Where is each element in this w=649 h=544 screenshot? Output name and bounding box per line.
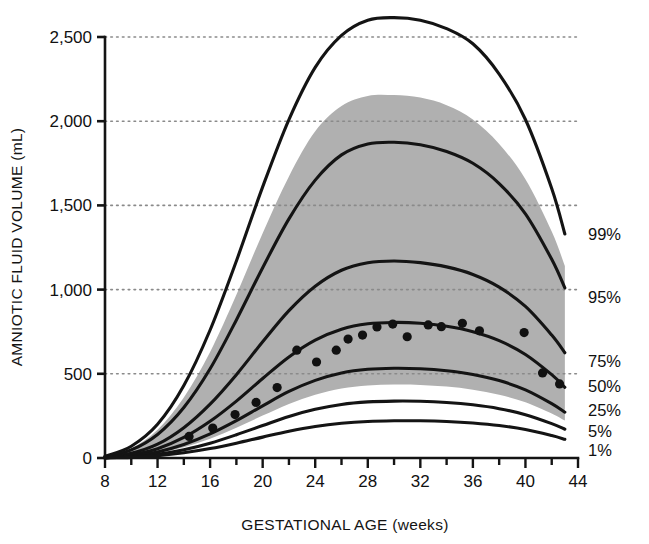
scatter-point-16 (475, 326, 484, 335)
scatter-point-8 (343, 335, 352, 344)
scatter-point-0 (184, 432, 193, 441)
scatter-point-5 (292, 346, 301, 355)
scatter-point-6 (312, 357, 321, 366)
scatter-point-17 (520, 328, 529, 337)
y-tick-label-500: 500 (64, 365, 92, 384)
percentile-label-95pct: 95% (588, 288, 621, 306)
percentile-label-99pct: 99% (588, 225, 621, 243)
x-tick-label-44: 44 (569, 472, 588, 491)
x-tick-label-8: 8 (100, 472, 109, 491)
y-tick-label-1500: 1,500 (49, 196, 92, 215)
x-tick-label-16: 16 (201, 472, 220, 491)
percentile-label-50pct: 50% (588, 377, 621, 395)
scatter-point-4 (273, 383, 282, 392)
scatter-point-3 (251, 398, 260, 407)
amniotic-fluid-volume-chart: 05001,0001,5002,0002,500 812162024283236… (0, 0, 649, 544)
chart-figure: 05001,0001,5002,0002,500 812162024283236… (0, 0, 649, 544)
percentile-label-25pct: 25% (588, 401, 621, 419)
scatter-point-12 (403, 332, 412, 341)
percentile-label-5pct: 5% (588, 422, 612, 440)
y-tick-label-2500: 2,500 (49, 28, 92, 47)
x-tick-label-28: 28 (358, 472, 377, 491)
percentile-label-1pct: 1% (588, 441, 612, 459)
scatter-point-10 (372, 322, 381, 331)
x-tick-label-40: 40 (516, 472, 535, 491)
scatter-point-7 (332, 346, 341, 355)
scatter-point-15 (458, 319, 467, 328)
scatter-point-11 (388, 320, 397, 329)
y-tick-label-2000: 2,000 (49, 112, 92, 131)
y-axis-title: AMNIOTIC FLUID VOLUME (mL) (8, 128, 25, 367)
scatter-point-19 (555, 379, 564, 388)
scatter-point-13 (424, 320, 433, 329)
scatter-point-9 (358, 330, 367, 339)
scatter-point-18 (538, 368, 547, 377)
x-tick-label-12: 12 (148, 472, 167, 491)
scatter-point-1 (208, 423, 217, 432)
scatter-point-14 (437, 322, 446, 331)
x-tick-label-36: 36 (463, 472, 482, 491)
y-tick-label-1000: 1,000 (49, 281, 92, 300)
y-tick-label-0: 0 (83, 449, 92, 468)
percentile-label-75pct: 75% (588, 352, 621, 370)
x-axis-title: GESTATIONAL AGE (weeks) (241, 516, 448, 533)
x-tick-label-32: 32 (411, 472, 430, 491)
x-tick-label-24: 24 (306, 472, 325, 491)
x-tick-label-20: 20 (253, 472, 272, 491)
scatter-point-2 (230, 410, 239, 419)
